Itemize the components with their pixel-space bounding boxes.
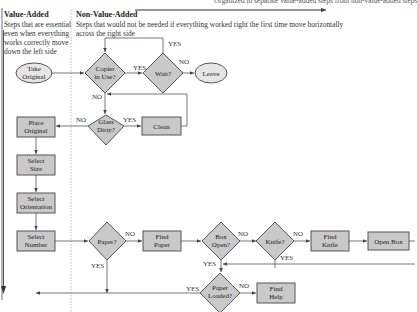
svg-text:Find: Find <box>270 285 283 293</box>
svg-text:Glass: Glass <box>98 118 114 126</box>
svg-text:Paper: Paper <box>212 284 229 292</box>
node-copier-in-use: Copier in Use? <box>85 53 125 93</box>
svg-text:Select: Select <box>27 157 44 165</box>
svg-text:Knife: Knife <box>322 241 338 249</box>
svg-text:NO: NO <box>179 58 189 66</box>
svg-text:NO: NO <box>92 93 102 101</box>
node-glass-dirty: Glass Dirty? <box>88 115 124 145</box>
svg-text:Original: Original <box>24 127 47 135</box>
svg-text:NO: NO <box>125 230 135 238</box>
node-find-paper: Find Paper <box>143 231 181 251</box>
node-find-knife: Find Knife <box>311 231 349 251</box>
svg-text:Help: Help <box>269 293 283 301</box>
node-paper: Paper? <box>89 222 126 260</box>
svg-text:Open?: Open? <box>212 241 230 249</box>
svg-text:YES: YES <box>168 40 181 48</box>
svg-text:Orientation: Orientation <box>20 203 52 211</box>
node-take-original: Take Original <box>16 63 52 83</box>
svg-text:NO: NO <box>76 116 86 124</box>
svg-text:Paper: Paper <box>154 241 171 249</box>
node-open-box: Open Box <box>368 232 409 250</box>
edge-yes: YES <box>133 64 146 72</box>
svg-text:Take: Take <box>27 65 41 73</box>
svg-text:Clean: Clean <box>153 123 170 131</box>
svg-text:Copier: Copier <box>95 65 115 73</box>
svg-text:Leave: Leave <box>202 70 219 78</box>
svg-text:NO: NO <box>293 230 303 238</box>
svg-text:YES: YES <box>203 260 216 268</box>
svg-text:YES: YES <box>91 262 104 270</box>
node-select-orientation: Select Orientation <box>17 193 55 213</box>
node-clean: Clean <box>142 117 181 135</box>
svg-text:YES: YES <box>123 116 136 124</box>
node-place-original: Place Original <box>17 117 55 137</box>
svg-text:Original: Original <box>22 73 45 81</box>
svg-text:Wait?: Wait? <box>155 70 171 78</box>
node-find-help: Find Help <box>257 283 295 303</box>
node-select-number: Select Number <box>17 231 55 251</box>
svg-text:Find: Find <box>324 233 337 241</box>
node-select-size: Select Size <box>17 155 55 175</box>
svg-text:Select: Select <box>27 233 44 241</box>
svg-text:NO: NO <box>238 230 248 238</box>
svg-text:Dirty?: Dirty? <box>97 126 115 134</box>
svg-text:in Use?: in Use? <box>94 73 115 81</box>
svg-text:Paper?: Paper? <box>97 238 116 246</box>
svg-text:Knife?: Knife? <box>265 238 284 246</box>
svg-text:Loaded?: Loaded? <box>208 292 232 300</box>
svg-text:YES: YES <box>280 254 293 262</box>
node-leave: Leave <box>195 63 227 83</box>
svg-text:Number: Number <box>25 241 49 249</box>
svg-text:Find: Find <box>156 233 169 241</box>
svg-text:Select: Select <box>27 195 44 203</box>
svg-text:Size: Size <box>30 165 42 173</box>
svg-text:Place: Place <box>28 119 43 127</box>
svg-text:Open Box: Open Box <box>374 238 403 246</box>
node-paper-loaded: Paper Loaded? <box>200 273 240 312</box>
svg-text:Box: Box <box>215 233 227 241</box>
svg-text:NO: NO <box>239 282 249 290</box>
svg-text:YES: YES <box>186 285 199 293</box>
node-box-open: Box Open? <box>202 222 240 260</box>
node-wait: Wait? <box>143 53 183 93</box>
